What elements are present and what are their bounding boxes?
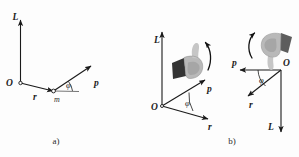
panel-b-left-vector-r-label: r: [208, 122, 212, 132]
panel-b-left-angle-label: φ: [185, 98, 190, 108]
panel-b-right-angle-label: φ: [259, 75, 264, 85]
figure-canvas: O L r p m φ a): [0, 0, 299, 157]
panel-a-origin-node: [19, 81, 22, 84]
panel-b-left-vector-p-label: p: [206, 84, 212, 94]
panel-b-right-vector-p-label: p: [231, 58, 237, 68]
panel-b-left-axis-L-label: L: [153, 35, 160, 45]
panel-a-caption: a): [53, 136, 60, 146]
panel-b-right-vector-r-label: r: [249, 100, 253, 110]
panel-b-caption: b): [228, 136, 236, 146]
panel-a-axis-L-label: L: [12, 12, 19, 22]
panel-a-angle-label: φ: [66, 80, 71, 90]
figure-background: [0, 0, 299, 157]
panel-a-mass-node: [52, 89, 56, 93]
physics-figure: O L r p m φ a): [0, 0, 299, 157]
panel-a-mass-label: m: [54, 95, 60, 104]
panel-a-vector-r-label: r: [33, 92, 37, 102]
panel-a-reference-line: [54, 91, 80, 92]
panel-a-vector-p-label: p: [93, 78, 99, 88]
panel-a-origin-label: O: [6, 78, 13, 88]
panel-b-left-origin-label: O: [151, 102, 158, 112]
panel-b-left-origin-node: [161, 105, 164, 108]
panel-b-right-origin-label: O: [283, 58, 290, 68]
panel-b-right-axis-L-label: L: [267, 122, 274, 132]
